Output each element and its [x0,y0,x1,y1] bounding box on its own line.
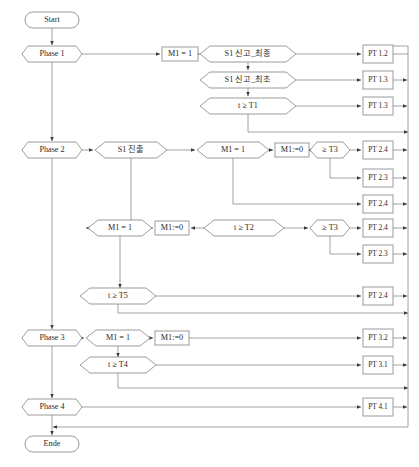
pt-box-pt-1-3-a[interactable]: PT 1.3 [363,71,393,89]
condition-label-c-t-ge-t5: t ≥ T5 [108,291,128,300]
phase-label-phase2: Phase 2 [39,145,64,154]
action-label-a-m1-0-a: M1:=0 [281,145,303,154]
phase-label-phase4: Phase 4 [39,402,64,411]
condition-label-c-m1-eq1-a: M1 = 1 [221,145,245,154]
pt-box-pt-1-2[interactable]: PT 1.2 [363,45,393,63]
pt-label-pt-2-4-c: PT 2.4 [368,223,388,232]
condition-c-m1-eq1-c[interactable]: M1 = 1 [86,330,150,346]
phase-label-phase1: Phase 1 [39,49,64,58]
edge-tget4-false-to-rail [118,373,408,388]
edge-phase1-group-to-rail [248,114,408,132]
pt-label-pt-1-2: PT 1.2 [368,49,388,58]
pt-label-pt-1-3-b: PT 1.3 [368,101,388,110]
condition-c-m1-eq1-a[interactable]: M1 = 1 [197,142,269,158]
pt-box-pt-4-1[interactable]: PT 4.1 [363,398,393,416]
action-label-a-m1-0-c: M1:=0 [161,333,183,342]
phase-label-phase3: Phase 3 [39,333,64,342]
pt-box-pt-2-3-b[interactable]: PT 2.3 [363,245,393,263]
terminal-label-start: Start [44,15,60,24]
pt-box-pt-2-4-a[interactable]: PT 2.4 [363,141,393,159]
condition-c-s1-jinchul[interactable]: S1 진출 [95,142,167,158]
condition-label-c-s1-jinchul: S1 진출 [118,144,145,154]
edge-m1eq1a-to-pt24b [233,158,361,204]
pt-box-pt-1-3-b[interactable]: PT 1.3 [363,97,393,115]
action-label-a-m1-1: M1 = 1 [168,49,192,58]
pt-label-pt-3-2: PT 3.2 [368,333,388,342]
condition-c-t-ge-t5[interactable]: t ≥ T5 [80,288,156,304]
edge-s1jinchul-to-m1eq1b [86,158,131,228]
action-label-a-m1-0-b: M1:=0 [161,223,183,232]
condition-label-c-m1-eq1-c: M1 = 1 [106,333,130,342]
flowchart-svg: StartEndePhase 1Phase 2Phase 3Phase 4S1 … [0,0,419,467]
pt-box-pt-2-3-a[interactable]: PT 2.3 [363,169,393,187]
edge-tget3a-to-pt23a [330,158,361,178]
pt-label-pt-2-3-b: PT 2.3 [368,249,388,258]
action-a-m1-0-c[interactable]: M1:=0 [155,331,189,345]
pt-label-pt-3-1: PT 3.1 [368,360,388,369]
condition-label-c-s1-final: S1 신고_최종 [225,48,272,58]
condition-label-c-t-ge-t2: t ≥ T2 [234,223,254,232]
pt-label-pt-1-3-a: PT 1.3 [368,75,388,84]
pt-box-pt-2-4-d[interactable]: PT 2.4 [363,287,393,305]
phase-phase3[interactable]: Phase 3 [22,330,82,346]
condition-label-c-t-ge-t1: t ≥ T1 [238,101,258,110]
pt-label-pt-2-4-d: PT 2.4 [368,291,388,300]
pt-label-pt-4-1: PT 4.1 [368,402,388,411]
flowchart-canvas: StartEndePhase 1Phase 2Phase 3Phase 4S1 … [0,0,419,467]
terminal-ende[interactable]: Ende [25,436,79,452]
pt-box-pt-3-1[interactable]: PT 3.1 [363,356,393,374]
terminal-start[interactable]: Start [25,12,79,28]
edge-tget3b-to-pt23b [330,236,361,254]
pt-box-pt-3-2[interactable]: PT 3.2 [363,329,393,347]
terminal-label-ende: Ende [44,439,61,448]
phase-phase4[interactable]: Phase 4 [22,399,82,415]
phase-phase1[interactable]: Phase 1 [22,46,82,62]
condition-c-t-ge-t3-a[interactable]: ≥ T3 [310,142,350,158]
condition-c-t-ge-t2[interactable]: t ≥ T2 [204,220,284,236]
condition-label-c-m1-eq1-b: M1 = 1 [108,223,132,232]
phase-phase2[interactable]: Phase 2 [22,142,82,158]
condition-c-m1-eq1-b[interactable]: M1 = 1 [88,220,152,236]
condition-label-c-t-ge-t3-a: ≥ T3 [322,145,338,154]
pt-label-pt-2-3-a: PT 2.3 [368,173,388,182]
pt-box-pt-2-4-b[interactable]: PT 2.4 [363,195,393,213]
condition-label-c-t-ge-t4: t ≥ T4 [108,360,128,369]
condition-label-c-s1-first: S1 신고_최초 [225,74,272,84]
action-a-m1-0-b[interactable]: M1:=0 [155,221,189,235]
pt-box-pt-2-4-c[interactable]: PT 2.4 [363,219,393,237]
condition-c-s1-first[interactable]: S1 신고_최초 [200,72,296,88]
condition-c-t-ge-t3-b[interactable]: ≥ T3 [310,220,350,236]
action-a-m1-1[interactable]: M1 = 1 [162,47,198,61]
pt-label-pt-2-4-b: PT 2.4 [368,199,388,208]
condition-label-c-t-ge-t3-b: ≥ T3 [322,223,338,232]
condition-c-t-ge-t1[interactable]: t ≥ T1 [200,98,296,114]
condition-c-t-ge-t4[interactable]: t ≥ T4 [80,357,156,373]
node-layer: StartEndePhase 1Phase 2Phase 3Phase 4S1 … [22,12,393,452]
right-return-rail [393,46,408,427]
condition-c-s1-final[interactable]: S1 신고_최종 [200,46,296,62]
action-a-m1-0-a[interactable]: M1:=0 [275,143,309,157]
pt-label-pt-2-4-a: PT 2.4 [368,145,388,154]
